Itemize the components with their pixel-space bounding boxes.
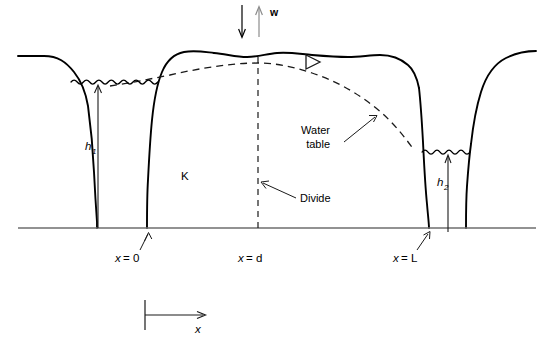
divide-label: Divide bbox=[300, 192, 331, 204]
water-table-leader-line bbox=[344, 117, 375, 142]
x-length-leader-line bbox=[417, 234, 428, 250]
water-table-label-line2: table bbox=[306, 138, 330, 150]
x-divide-variable: x bbox=[237, 252, 245, 264]
right-stream-water-surface bbox=[422, 150, 470, 154]
water-table-label-line1: Water bbox=[301, 124, 330, 136]
land-surface-hill-crest bbox=[214, 53, 419, 88]
h2-subscript: 2 bbox=[443, 183, 449, 192]
x-length-variable: x bbox=[392, 252, 400, 264]
figure-root: w K h 1 h 2 Water table Divide x = 0 x =… bbox=[0, 0, 554, 343]
h2-label: h bbox=[437, 176, 443, 188]
hydraulic-conductivity-label: K bbox=[181, 170, 189, 182]
x-axis-label: x bbox=[194, 323, 202, 335]
h1-subscript: 1 bbox=[92, 147, 96, 156]
water-table-curve bbox=[110, 63, 414, 150]
x-zero-leader-arrowhead bbox=[145, 233, 152, 242]
water-table-triangle-icon bbox=[306, 55, 320, 69]
divide-leader-line bbox=[263, 183, 296, 198]
x-length-equation: = L bbox=[401, 252, 418, 264]
groundwater-cross-section-diagram: w K h 1 h 2 Water table Divide x = 0 x =… bbox=[0, 0, 554, 343]
recharge-label: w bbox=[269, 6, 279, 18]
land-surface-hill-right-flank bbox=[419, 88, 429, 228]
x-zero-equation: = 0 bbox=[123, 252, 139, 264]
left-stream-water-surface bbox=[71, 80, 158, 84]
x-divide-equation: = d bbox=[246, 252, 262, 264]
land-surface-right-bank bbox=[466, 51, 536, 228]
x-zero-variable: x bbox=[114, 252, 122, 264]
h1-label: h bbox=[85, 140, 91, 152]
land-surface-hill-left-flank bbox=[147, 51, 214, 228]
